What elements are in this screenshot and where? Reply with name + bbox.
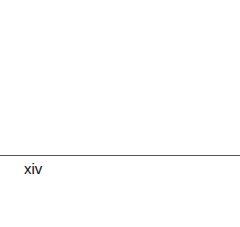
document-page: xiv	[0, 0, 240, 227]
page-number: xiv	[24, 160, 42, 178]
footer-rule	[0, 155, 240, 156]
